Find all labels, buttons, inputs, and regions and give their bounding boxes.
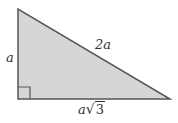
sqrt-symbol: √	[86, 101, 95, 117]
triangle-shape	[18, 9, 170, 99]
base-variable: a	[78, 102, 86, 117]
sqrt-radicand: 3	[95, 101, 105, 117]
side-label-vertical: a	[6, 51, 14, 64]
side-label-hypotenuse: 2a	[95, 38, 111, 51]
sqrt-expression: √3	[86, 102, 105, 117]
side-label-base: a√3	[78, 102, 105, 116]
